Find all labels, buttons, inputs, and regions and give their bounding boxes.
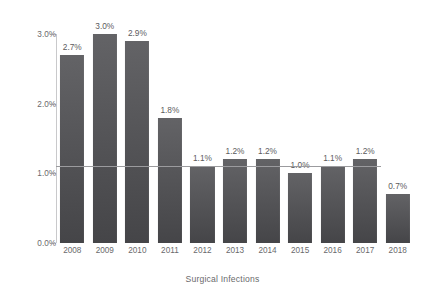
bar-value-label: 1.1%	[323, 153, 342, 163]
bar-group[interactable]: 1.0%	[284, 34, 317, 243]
bar-group[interactable]: 1.1%	[316, 34, 349, 243]
bar[interactable]	[190, 166, 214, 243]
bar-group[interactable]: 3.0%	[89, 34, 122, 243]
x-axis-tick-label: 2014	[258, 246, 276, 255]
bar-chart: Infection Rate 0.0%1.0%2.0%3.0% 2.7%3.0%…	[0, 0, 445, 298]
bar-value-label: 1.2%	[356, 146, 375, 156]
bar-value-label: 1.2%	[258, 146, 277, 156]
x-axis-tick-label: 2015	[291, 246, 309, 255]
reference-line	[56, 166, 381, 168]
x-axis-tick-label: 2012	[193, 246, 211, 255]
bar-value-label: 1.2%	[226, 146, 245, 156]
bar-group[interactable]: 1.2%	[219, 34, 252, 243]
bar-group[interactable]: 0.7%	[381, 34, 414, 243]
bar-value-label: 2.7%	[63, 42, 82, 52]
x-axis-ticks: 2008200920102011201220132014201520162017…	[56, 246, 414, 260]
x-axis-tick-label: 2017	[356, 246, 374, 255]
bar[interactable]	[353, 159, 377, 243]
x-axis-tick-label: 2011	[161, 246, 179, 255]
y-axis-tick-label: 3.0%	[10, 30, 56, 39]
x-axis-title: Surgical Infections	[0, 274, 445, 284]
y-axis-title: Infection Rate	[2, 0, 24, 22]
bar[interactable]	[93, 34, 117, 243]
bar-value-label: 1.8%	[160, 105, 179, 115]
y-axis-tick-label: 1.0%	[10, 169, 56, 178]
x-axis-tick-label: 2018	[389, 246, 407, 255]
bar-value-label: 2.9%	[128, 28, 147, 38]
x-axis-tick-label: 2009	[96, 246, 114, 255]
bar-group[interactable]: 1.2%	[349, 34, 382, 243]
x-axis-tick-label: 2016	[324, 246, 342, 255]
bar[interactable]	[158, 118, 182, 243]
y-axis-tick-label: 0.0%	[10, 239, 56, 248]
bar-value-label: 1.1%	[193, 153, 212, 163]
x-axis-tick-label: 2010	[128, 246, 146, 255]
bars-layer: 2.7%3.0%2.9%1.8%1.1%1.2%1.2%1.0%1.1%1.2%…	[56, 34, 414, 243]
y-axis-tick-label: 2.0%	[10, 99, 56, 108]
bar[interactable]	[288, 173, 312, 243]
bar[interactable]	[255, 159, 279, 243]
bar[interactable]	[321, 166, 345, 243]
bar-group[interactable]: 1.1%	[186, 34, 219, 243]
bar-group[interactable]: 2.7%	[56, 34, 89, 243]
bar-group[interactable]: 1.8%	[154, 34, 187, 243]
bar-value-label: 0.7%	[388, 181, 407, 191]
bar-group[interactable]: 1.2%	[251, 34, 284, 243]
bar[interactable]	[223, 159, 247, 243]
bar-group[interactable]: 2.9%	[121, 34, 154, 243]
x-axis-tick-label: 2008	[63, 246, 81, 255]
plot-area: 2.7%3.0%2.9%1.8%1.1%1.2%1.2%1.0%1.1%1.2%…	[56, 34, 414, 243]
bar[interactable]	[60, 55, 84, 243]
bar[interactable]	[125, 41, 149, 243]
bar-value-label: 3.0%	[95, 21, 114, 31]
bar[interactable]	[386, 194, 410, 243]
x-axis-tick-label: 2013	[226, 246, 244, 255]
